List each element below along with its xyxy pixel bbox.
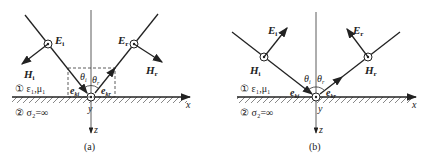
- Er-label: Er: [117, 34, 128, 48]
- x-axis-label: x: [411, 99, 417, 110]
- theta-r-label: θr: [317, 73, 325, 85]
- caption-a: (a): [84, 141, 95, 153]
- eki-label: eki: [70, 85, 79, 97]
- medium1-label: ① ε₁,μ₁: [240, 83, 271, 94]
- theta-i-label: θi: [80, 71, 87, 83]
- Er-label: Er: [352, 24, 363, 38]
- theta-i-label: θi: [304, 73, 311, 85]
- y-axis-label: y: [87, 103, 93, 114]
- Hi-label: Hi: [23, 68, 35, 82]
- caption-b: (b): [309, 141, 321, 153]
- medium2-label: ② σ₂=∞: [240, 107, 273, 118]
- oblique-incidence-diagram: x z y Ei Hi Er Hr θi θr eki ekr ① ε: [0, 0, 428, 165]
- theta-r-label: θr: [92, 74, 100, 86]
- Hr-arrow: [134, 44, 162, 62]
- eki-label: eki: [290, 87, 299, 99]
- conductor-hatch: [12, 97, 187, 103]
- Hr-label: Hr: [364, 64, 377, 78]
- ekr-label: ekr: [101, 85, 111, 97]
- y-axis-label: y: [317, 103, 323, 114]
- x-axis-label: x: [185, 99, 191, 110]
- Hr-label: Hr: [145, 64, 158, 78]
- z-axis-label: z: [93, 124, 98, 135]
- Ei-label: Ei: [54, 34, 64, 48]
- Hi-arrow: [22, 44, 48, 64]
- conductor-hatch: [237, 97, 412, 103]
- panel-b: x z y Ei Hi Er Hr θi θr eki ekr ① ε₁,μ₁ …: [232, 12, 417, 153]
- medium1-label: ① ε₁,μ₁: [15, 83, 46, 94]
- origin-dot-icon: [315, 96, 317, 98]
- ekr-label: ekr: [326, 87, 336, 99]
- z-axis-label: z: [318, 124, 323, 135]
- medium2-label: ② σ₂=∞: [15, 107, 48, 118]
- Hi-label: Hi: [249, 64, 261, 78]
- panel-a: x z y Ei Hi Er Hr θi θr eki ekr ① ε: [12, 10, 191, 153]
- Ei-label: Ei: [267, 24, 277, 38]
